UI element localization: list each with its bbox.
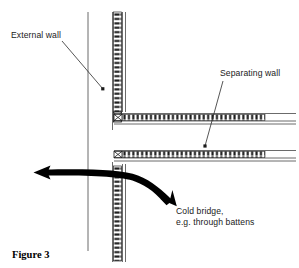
construction-detail-diagram: External wall Separating wall Cold bridg… — [0, 0, 299, 268]
figure-container: External wall Separating wall Cold bridg… — [0, 0, 299, 268]
separating-wall-label: Separating wall — [220, 68, 280, 78]
cold-bridge-label-line2: e.g. through battens — [176, 217, 254, 227]
separating-wall-upper-vertical — [113, 12, 126, 130]
wall-junction-block-upper-h — [114, 114, 122, 120]
separating-wall-lower-horizontal — [114, 151, 296, 162]
external-wall-label: External wall — [11, 30, 61, 40]
wall-junction-block-lower-h — [114, 151, 122, 157]
external-wall-leader — [62, 41, 104, 90]
cold-bridge-arrow — [34, 165, 177, 206]
figure-caption: Figure 3 — [12, 249, 49, 260]
cold-bridge-label-line1: Cold bridge, — [176, 206, 224, 216]
separating-wall-upper-horizontal — [114, 114, 296, 125]
